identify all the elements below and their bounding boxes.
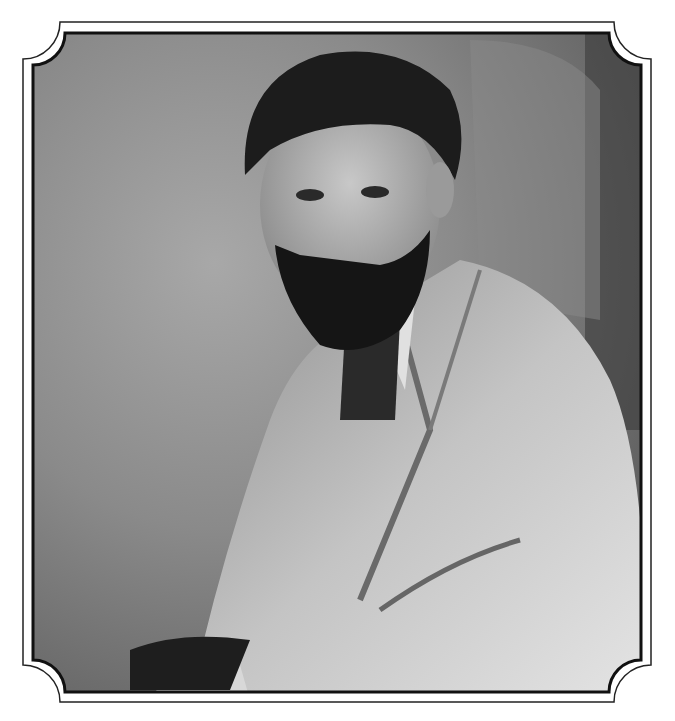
framed-portrait: [0, 0, 675, 721]
photograph: [30, 30, 646, 700]
